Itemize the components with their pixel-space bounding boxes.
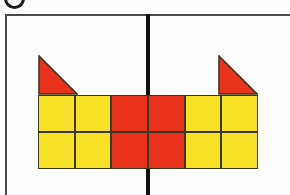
grid-row-top — [38, 95, 258, 132]
grid-cell — [185, 132, 222, 169]
grid-cell — [38, 95, 75, 132]
right-triangle — [218, 55, 258, 95]
grid-cell — [148, 95, 185, 132]
grid-cell — [111, 132, 148, 169]
grid-cell — [221, 95, 258, 132]
grid-cell — [148, 132, 185, 169]
grid-cell — [75, 95, 112, 132]
grid-cell — [75, 132, 112, 169]
grid-cell — [185, 95, 222, 132]
tile-figure — [38, 55, 258, 169]
grid-cell — [111, 95, 148, 132]
grid-cell — [221, 132, 258, 169]
left-triangle — [38, 55, 78, 95]
question-number-badge — [4, 0, 25, 9]
grid-cell — [38, 132, 75, 169]
triangle-row — [38, 55, 258, 95]
figure-stage — [0, 0, 290, 195]
grid-row-bottom — [38, 132, 258, 169]
